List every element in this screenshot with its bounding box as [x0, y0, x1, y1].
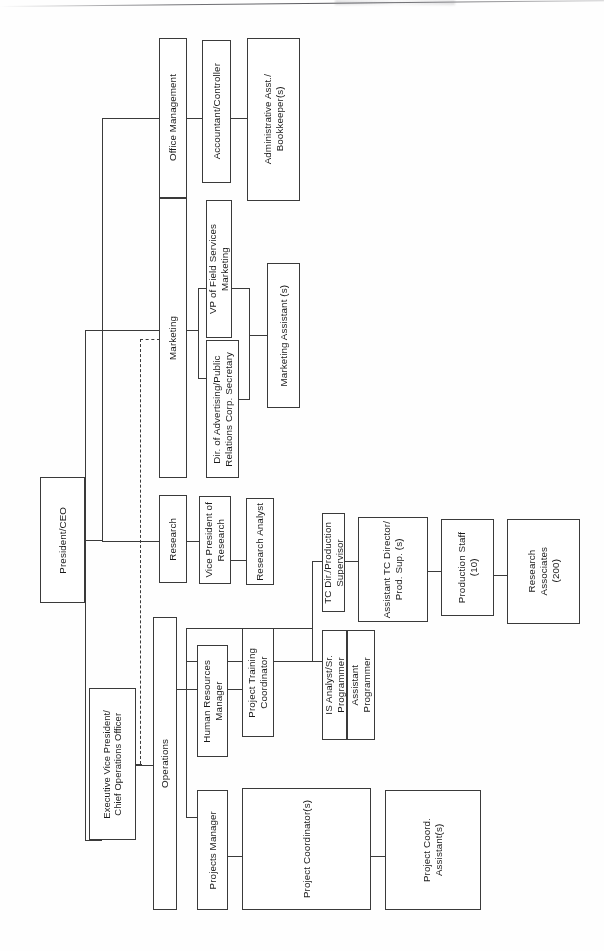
connector-tech-spine	[312, 561, 313, 662]
connector-assttc-to-prodstaff	[428, 571, 441, 572]
node-projects-mgr-label: Projects Manager	[206, 809, 220, 891]
node-president-label: President/CEO	[56, 505, 70, 576]
connector-operations-child-spine	[186, 628, 187, 818]
node-mkt-asst-label: Marketing Assistant (s)	[277, 283, 291, 388]
connector-marketing-to-vpfield	[198, 288, 206, 289]
node-research-analyst[interactable]: Research Analyst	[246, 498, 274, 585]
node-vp-field[interactable]: VP of Field Services Marketing	[206, 200, 232, 338]
node-dir-adv-label: Dir. of Advertising/Public Relations Cor…	[210, 350, 236, 469]
node-asst-tc-dir-label: Assistant TC Director/ Prod. Sup. (s)	[380, 519, 406, 620]
node-proj-coord-label: Project Coordinator(s)	[300, 798, 314, 900]
connector-tech-to-tcdir	[312, 561, 322, 562]
node-dir-adv[interactable]: Dir. of Advertising/Public Relations Cor…	[206, 340, 239, 478]
node-admin-asst-label: Administrative Asst./ Bookkeeper(s)	[261, 72, 287, 166]
connector-spine-to-marketing	[102, 330, 159, 331]
node-asst-tc-dir[interactable]: Assistant TC Director/ Prod. Sup. (s)	[358, 517, 428, 622]
node-asst-programmer[interactable]: Assistant Programmer	[347, 630, 375, 740]
node-is-analyst[interactable]: IS Analyst/Sr. Programmer	[322, 630, 347, 740]
connector-marketing-to-diradv	[198, 378, 206, 379]
connector-operations-to-projmgr	[186, 817, 197, 818]
node-operations-label: Operations	[158, 737, 172, 790]
connector-dashed-evp-marketing-top	[140, 339, 160, 340]
node-tc-dir-label: TC Dir./Production Supervisor	[322, 520, 345, 606]
node-hr-mgr[interactable]: Human Resources Manager	[197, 645, 228, 757]
node-vp-research-label: Vice President of Research	[202, 500, 228, 580]
node-hr-mgr-label: Human Resources Manager	[200, 658, 226, 745]
connector-top-branch-spine	[102, 118, 103, 331]
connector-hr-to-projtraining	[228, 689, 242, 690]
connector-prodstaff-to-researchassoc	[494, 575, 507, 576]
connector-vpfield-out	[232, 288, 250, 289]
node-accountant-label: Accountant/Controller	[210, 61, 224, 161]
connector-tech-to-isanalyst	[312, 661, 322, 662]
node-proj-coord-asst-label: Project Coord. Assistant(s)	[420, 816, 446, 884]
node-mkt-asst[interactable]: Marketing Assistant (s)	[267, 263, 300, 408]
node-research[interactable]: Research	[159, 495, 187, 583]
connector-president-stem	[85, 540, 103, 541]
node-president[interactable]: President/CEO	[40, 477, 85, 603]
page-scan-smudge	[335, 0, 455, 5]
connector-coord-to-coordasst	[371, 856, 385, 857]
connector-president-to-evp	[85, 840, 102, 841]
node-admin-asst[interactable]: Administrative Asst./ Bookkeeper(s)	[247, 38, 300, 201]
connector-president-trunk	[85, 330, 86, 841]
node-tc-dir[interactable]: TC Dir./Production Supervisor	[322, 513, 345, 612]
node-projects-mgr[interactable]: Projects Manager	[197, 790, 228, 910]
connector-mktasst-join	[249, 288, 250, 400]
connector-evp-to-operations	[136, 765, 153, 766]
connector-spine-to-research	[102, 541, 159, 542]
connector-trunk-to-spine	[85, 330, 103, 331]
node-accountant[interactable]: Accountant/Controller	[202, 40, 231, 183]
node-proj-training[interactable]: Project Training Coordinator	[242, 628, 274, 737]
node-prod-staff-label: Production Staff (10)	[455, 530, 481, 605]
node-is-analyst-label: IS Analyst/Sr. Programmer	[322, 653, 347, 717]
node-office-mgmt[interactable]: Office Management	[159, 38, 187, 198]
connector-dashed-evp-marketing	[140, 339, 141, 764]
connector-diradv-out	[239, 399, 250, 400]
connector-join-to-mktasst	[249, 335, 267, 336]
connector-spine-to-office-mgmt	[102, 118, 159, 119]
connector-spine-research-drop	[102, 330, 103, 542]
node-proj-training-label: Project Training Coordinator	[245, 646, 271, 720]
node-research-analyst-label: Research Analyst	[253, 501, 267, 583]
node-vp-research[interactable]: Vice President of Research	[199, 496, 231, 584]
connector-operations-to-hr	[186, 689, 197, 690]
node-proj-coord[interactable]: Project Coordinator(s)	[242, 788, 371, 910]
node-evp[interactable]: Executive Vice President/ Chief Operatio…	[89, 688, 136, 840]
org-chart-page: President/CEO Executive Vice President/ …	[0, 0, 604, 951]
connector-research-to-vp	[187, 541, 199, 542]
connector-projmgr-to-coord	[228, 856, 242, 857]
node-research-assoc[interactable]: Research Associates (200)	[507, 519, 580, 624]
node-marketing-label: Marketing	[166, 314, 180, 362]
node-asst-programmer-label: Assistant Programmer	[348, 655, 374, 714]
node-research-assoc-label: Research Associates (200)	[525, 545, 563, 597]
connector-marketing-child-spine	[198, 288, 199, 379]
node-proj-coord-asst[interactable]: Project Coord. Assistant(s)	[385, 790, 481, 910]
node-prod-staff[interactable]: Production Staff (10)	[441, 519, 494, 616]
connector-vpresearch-to-analyst	[231, 560, 246, 561]
node-vp-field-label: VP of Field Services Marketing	[206, 222, 232, 316]
connector-accountant-to-admin	[231, 118, 247, 119]
node-evp-label: Executive Vice President/ Chief Operatio…	[100, 708, 125, 821]
connector-tcdir-to-assttc	[345, 561, 358, 562]
node-operations[interactable]: Operations	[153, 617, 177, 910]
node-marketing[interactable]: Marketing	[159, 198, 187, 478]
connector-dashed-evp-marketing-bottom	[136, 764, 142, 765]
connector-office-to-accountant	[187, 118, 202, 119]
node-office-mgmt-label: Office Management	[166, 72, 180, 163]
node-research-label: Research	[166, 516, 180, 563]
page-scan-edge	[0, 0, 604, 7]
